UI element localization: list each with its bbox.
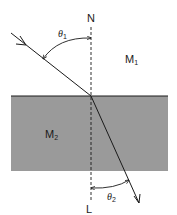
medium2-region (11, 96, 168, 171)
normal-bottom-label: L (86, 203, 92, 215)
angle1-label: θ1 (58, 28, 67, 40)
normal-top-label: N (87, 12, 95, 24)
incident-ray (11, 33, 91, 96)
medium1-label: M1 (125, 53, 138, 66)
angle1-arc (43, 38, 91, 59)
angle2-label: θ2 (107, 191, 116, 203)
angle2-arc (91, 180, 129, 188)
refraction-diagram: N L θ1 θ2 M1 M2 (0, 0, 177, 215)
